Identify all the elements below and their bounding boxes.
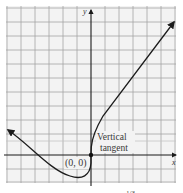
origin-label: (0, 0) — [65, 157, 87, 169]
y-axis-label: y — [82, 7, 87, 16]
caption-fragment: 1/3 — [126, 189, 135, 193]
origin-point — [89, 153, 93, 157]
annotation-vertical: Vertical — [97, 132, 127, 142]
x-axis-label: x — [171, 158, 176, 167]
annotation-tangent: tangent — [100, 143, 128, 153]
chart-canvas: x y (0, 0) Vertical tangent 1/3 — [0, 0, 183, 193]
